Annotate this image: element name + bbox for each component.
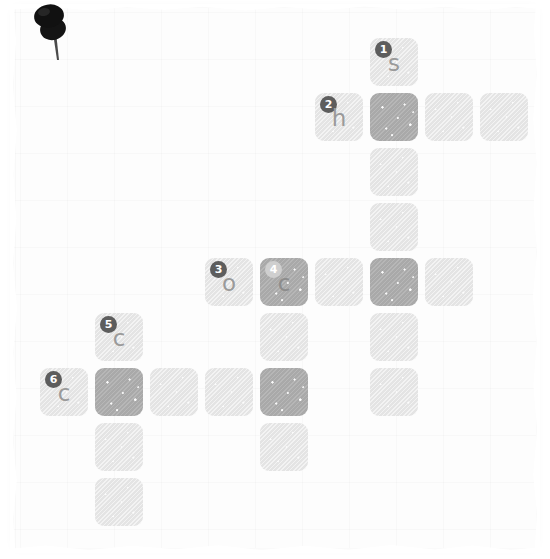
crossword-cell[interactable] [95, 478, 143, 526]
crossword-cell[interactable]: 2h [315, 93, 363, 141]
crossword-cell[interactable] [370, 148, 418, 196]
crossword-cell[interactable] [205, 368, 253, 416]
crossword-cell[interactable] [260, 368, 308, 416]
pushpin-icon [26, 2, 84, 64]
crossword-cell[interactable] [260, 313, 308, 361]
crossword-cell[interactable] [370, 258, 418, 306]
crossword-cell[interactable] [425, 93, 473, 141]
crossword-cell[interactable] [370, 203, 418, 251]
crossword-cell[interactable] [315, 258, 363, 306]
crossword-cell[interactable] [95, 423, 143, 471]
crossword-cell[interactable] [370, 93, 418, 141]
crossword-cell[interactable] [370, 368, 418, 416]
crossword-cell[interactable]: 5c [95, 313, 143, 361]
cell-letter: c [95, 323, 143, 353]
crossword-cell[interactable] [370, 313, 418, 361]
crossword-cell[interactable]: 4c [260, 258, 308, 306]
crossword-cell[interactable] [260, 423, 308, 471]
crossword-cell[interactable] [425, 258, 473, 306]
crossword-cell[interactable] [480, 93, 528, 141]
cell-letter: c [260, 268, 308, 298]
crossword-cell[interactable]: 6c [40, 368, 88, 416]
crossword-cell[interactable]: 1s [370, 38, 418, 86]
cell-letter: c [40, 378, 88, 408]
crossword-cell[interactable] [150, 368, 198, 416]
crossword-grid[interactable]: 1s2h3o4c5c6c [0, 0, 550, 559]
cell-letter: o [205, 268, 253, 298]
crossword-cell[interactable]: 3o [205, 258, 253, 306]
cell-letter: h [315, 103, 363, 133]
crossword-screen: 1s2h3o4c5c6c [0, 0, 550, 559]
crossword-cell[interactable] [95, 368, 143, 416]
cell-letter: s [370, 48, 418, 78]
